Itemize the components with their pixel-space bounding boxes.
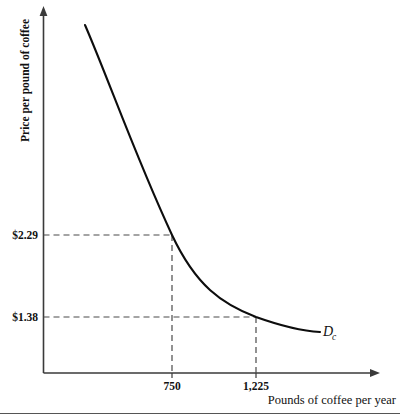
chart-canvas: $2.29 $1.38 750 1,225 D c Price per poun…	[0, 0, 400, 420]
y-axis	[40, 6, 48, 373]
curve-label-subscript-c: c	[332, 332, 337, 342]
y-axis-arrow-icon	[40, 6, 48, 16]
x-axis	[44, 369, 381, 377]
demand-curve-dc	[85, 25, 320, 332]
curve-label-group: D c	[322, 324, 337, 342]
x-tick-label-qty-low: 750	[163, 380, 181, 392]
demand-curve-figure: $2.29 $1.38 750 1,225 D c Price per poun…	[0, 0, 400, 420]
y-axis-title: Price per pound of coffee	[19, 19, 32, 142]
guide-lines-750	[44, 235, 173, 373]
x-tick-label-qty-high: 1,225	[243, 380, 269, 392]
x-axis-arrow-icon	[370, 369, 380, 377]
y-tick-label-price-low: $1.38	[12, 311, 38, 323]
y-tick-label-price-high: $2.29	[12, 229, 38, 241]
guide-lines-1225	[44, 317, 257, 373]
x-axis-title: Pounds of coffee per year	[268, 393, 397, 407]
